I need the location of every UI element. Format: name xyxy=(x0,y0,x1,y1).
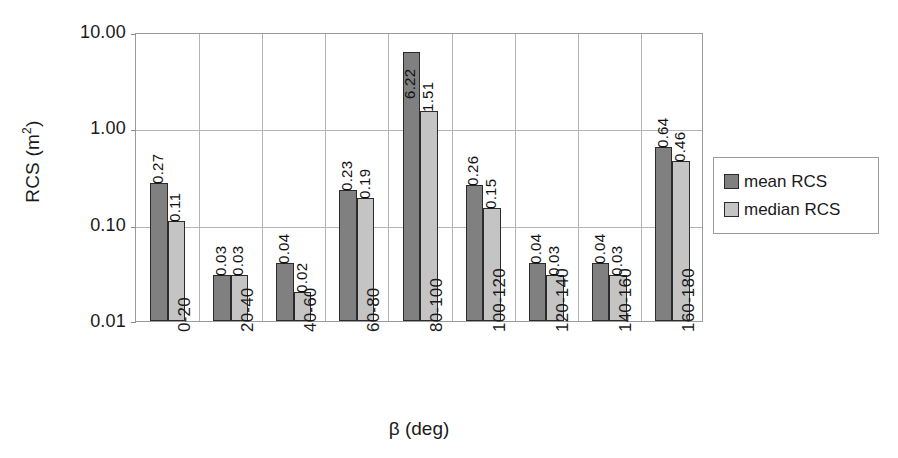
legend-item: median RCS xyxy=(724,195,878,223)
bar xyxy=(213,275,231,321)
bar xyxy=(529,263,547,321)
y-axis-tick-mark xyxy=(131,130,136,131)
bar-value-label: 0.04 xyxy=(527,234,544,264)
bar-value-label: 0.46 xyxy=(671,131,688,161)
y-axis-tick-label: 10.00 xyxy=(52,22,126,43)
gridline-vertical xyxy=(515,34,516,321)
gridline-vertical xyxy=(262,34,263,321)
bar-value-label: 0.19 xyxy=(356,168,373,198)
bar-value-label: 0.64 xyxy=(654,118,671,148)
bar-value-label: 0.15 xyxy=(482,178,499,208)
x-axis-title-text: β (deg) xyxy=(389,418,450,440)
x-axis-tick-label: 0-20 xyxy=(175,297,195,332)
bar-value-label: 0.26 xyxy=(464,155,481,185)
bar xyxy=(466,185,484,321)
bar-value-label: 0.04 xyxy=(591,234,608,264)
gridline-vertical xyxy=(199,34,200,321)
bar xyxy=(339,190,357,321)
bar-value-label: 0.27 xyxy=(149,154,166,184)
bar-value-label: 0.03 xyxy=(229,246,246,276)
y-axis-tick-label: 0.01 xyxy=(52,311,126,332)
gridline-vertical xyxy=(452,34,453,321)
legend-label: mean RCS xyxy=(744,173,827,190)
bar xyxy=(655,147,673,321)
rcs-bar-chart: RCS (m2) 10.001.000.100.01 0.270.110.030… xyxy=(0,0,898,458)
y-axis-tick-label: 1.00 xyxy=(52,118,126,139)
x-axis-tick-label: 40-60 xyxy=(301,288,321,332)
legend-swatch-mean xyxy=(724,174,739,189)
x-axis-tick-label: 140-160 xyxy=(616,268,636,332)
y-axis-title: RCS (m2) xyxy=(20,92,43,232)
y-axis-tick-label: 0.10 xyxy=(52,215,126,236)
bar-value-label: 0.11 xyxy=(166,192,183,221)
legend-label: median RCS xyxy=(744,201,840,218)
gridline-vertical xyxy=(388,34,389,321)
bar-value-label: 0.23 xyxy=(338,160,355,190)
y-axis-title-exponent: 2 xyxy=(20,127,34,134)
bar-value-label: 1.51 xyxy=(419,82,436,112)
bar-value-label: 6.22 xyxy=(401,68,418,98)
bar xyxy=(150,183,168,321)
x-axis-tick-label: 160-180 xyxy=(679,268,699,332)
gridline-vertical xyxy=(578,34,579,321)
x-axis-tick-label: 100-120 xyxy=(490,268,510,332)
x-axis-tick-label: 80-100 xyxy=(427,278,447,332)
legend-item: mean RCS xyxy=(724,167,878,195)
y-axis-title-tail: ) xyxy=(22,121,43,128)
gridline-vertical xyxy=(325,34,326,321)
legend-swatch-median xyxy=(724,202,739,217)
legend: mean RCSmedian RCS xyxy=(713,157,879,234)
gridline-vertical xyxy=(641,34,642,321)
bar xyxy=(592,263,610,321)
x-axis-tick-label: 120-140 xyxy=(553,268,573,332)
x-axis-title: β (deg) xyxy=(0,418,898,440)
y-axis-tick-mark xyxy=(131,34,136,35)
x-axis-tick-label: 20-40 xyxy=(238,288,258,332)
x-axis-tick-label: 60-80 xyxy=(364,288,384,332)
y-axis-title-base: RCS (m xyxy=(22,134,43,203)
bar-value-label: 0.03 xyxy=(212,246,229,276)
y-axis-tick-mark xyxy=(131,227,136,228)
bar xyxy=(276,263,294,321)
y-axis-tick-mark xyxy=(131,322,136,323)
bar-value-label: 0.04 xyxy=(275,234,292,264)
